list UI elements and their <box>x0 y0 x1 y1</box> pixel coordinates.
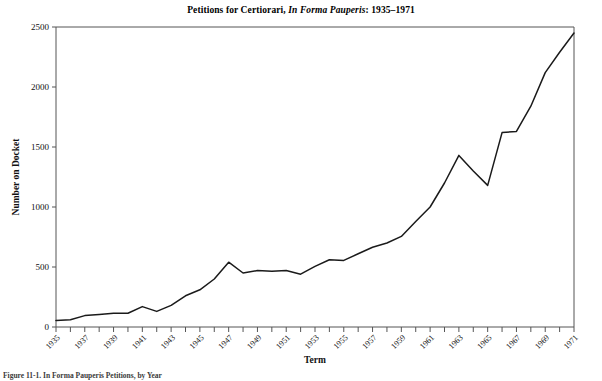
x-axis-tick-label: 1959 <box>389 333 407 351</box>
y-axis-tick-label: 2000 <box>31 82 50 92</box>
x-axis-tick-label: 1955 <box>332 333 350 351</box>
y-axis: 05001000150020002500 <box>31 22 56 332</box>
y-axis-tick-label: 2500 <box>31 22 50 32</box>
x-axis-tick-label: 1947 <box>217 333 235 351</box>
x-axis-tick-label: 1951 <box>274 333 292 351</box>
x-axis-tick-label: 1965 <box>476 333 494 351</box>
y-axis-tick-label: 1500 <box>31 142 50 152</box>
y-axis-tick-label: 0 <box>45 322 50 332</box>
x-axis-tick-label: 1969 <box>533 333 551 351</box>
x-axis-tick-label: 1939 <box>102 333 120 351</box>
x-axis-tick-label: 1949 <box>245 333 263 351</box>
x-axis-tick-label: 1963 <box>447 333 465 351</box>
x-axis-tick-label: 1943 <box>159 333 177 351</box>
y-axis-tick-label: 1000 <box>31 202 50 212</box>
x-axis-tick-label: 1953 <box>303 333 321 351</box>
x-axis-title: Term <box>304 355 326 365</box>
x-axis-tick-label: 1957 <box>361 333 379 351</box>
figure-container: Petitions for Certiorari, In Forma Paupe… <box>0 0 602 381</box>
figure-caption: Figure 11-1. In Forma Pauperis Petitions… <box>3 370 383 381</box>
x-axis-tick-label: 1945 <box>188 333 206 351</box>
y-axis-title: Number on Docket <box>11 138 21 216</box>
x-axis-tick-label: 1935 <box>44 333 62 351</box>
x-axis-tick-label: 1941 <box>130 333 148 351</box>
x-axis-tick-label: 1961 <box>418 333 436 351</box>
data-series-line <box>56 33 574 320</box>
x-axis: 1935193719391941194319451947194919511953… <box>44 327 580 351</box>
x-axis-tick-label: 1971 <box>562 333 580 351</box>
plot-frame <box>56 27 574 327</box>
line-chart: 05001000150020002500 1935193719391941194… <box>0 0 602 381</box>
x-axis-tick-label: 1937 <box>73 333 91 351</box>
x-axis-tick-label: 1967 <box>504 333 522 351</box>
y-axis-tick-label: 500 <box>36 262 50 272</box>
